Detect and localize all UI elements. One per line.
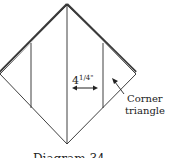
diamond-outline	[0, 5, 136, 144]
diagram-caption: Diagram 34	[33, 152, 105, 158]
callout-triangle: triangle	[125, 105, 165, 116]
quilt-block-diagram: 41/4" Corner triangle Diagram 34	[0, 0, 172, 158]
callout-corner: Corner	[127, 93, 163, 104]
